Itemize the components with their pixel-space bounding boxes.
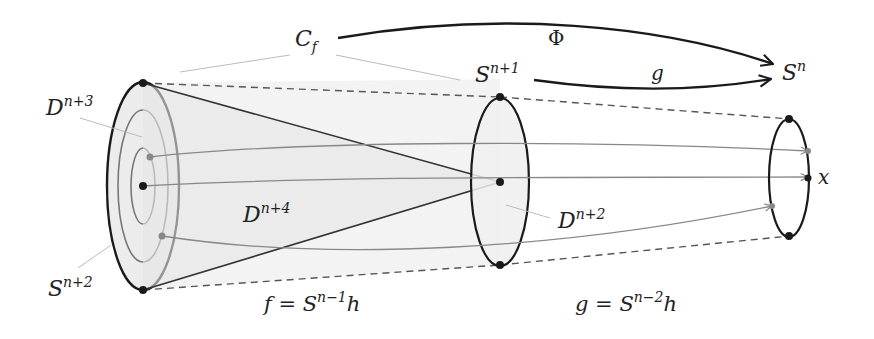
label-g-eq: g = Sn−2h [575,289,677,316]
label-phi: Φ [548,26,564,50]
diagram-canvas: Cf Φ g Sn Sn+1 Dn+3 Dn+4 Dn+2 Sn+2 x f =… [0,0,874,339]
label-cf: Cf [295,26,320,55]
label-dn3: Dn+3 [45,93,93,120]
label-dn2: Dn+2 [557,206,605,233]
label-x: x [818,165,829,189]
label-sn2: Sn+2 [48,274,93,301]
target-sphere [769,119,809,237]
label-sn: Sn [782,58,806,85]
label-f-eq: f = Sn−1h [262,289,360,316]
label-g-arrow: g [651,61,664,85]
